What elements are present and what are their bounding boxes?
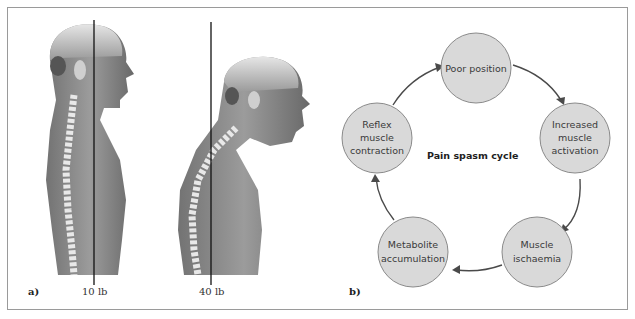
arrowhead-icon xyxy=(371,174,380,182)
node-label: accumulation xyxy=(381,253,445,264)
arrow-ischaemia-to-metabolite xyxy=(456,265,502,271)
node-label: Poor position xyxy=(445,63,507,74)
node-metabolite-accumulation xyxy=(378,217,448,287)
upright-figure-icon xyxy=(46,24,134,275)
weight-label-40lb: 40 lb xyxy=(199,286,225,297)
node-muscle-ischaemia xyxy=(502,217,572,287)
node-label: muscle xyxy=(360,132,394,143)
node-label: Muscle xyxy=(521,239,554,250)
arrowhead-icon xyxy=(556,97,565,105)
cycle-title: Pain spasm cycle xyxy=(427,150,518,161)
panel-a-illustration: Poor position Increased muscle activatio… xyxy=(0,0,635,319)
node-label: Reflex xyxy=(362,119,392,130)
node-label: ischaemia xyxy=(513,253,561,264)
weight-label-10lb: 10 lb xyxy=(82,286,108,297)
node-label: Metabolite xyxy=(388,239,438,250)
arrow-increased-to-ischaemia xyxy=(563,179,580,230)
node-label: activation xyxy=(551,145,598,156)
arrow-metabolite-to-reflex xyxy=(376,178,394,220)
forward-head-figure-icon xyxy=(178,57,310,275)
arrow-poor-to-increased xyxy=(513,65,561,100)
node-label: contraction xyxy=(350,145,404,156)
arrow-reflex-to-poor xyxy=(393,67,440,105)
arrowhead-icon xyxy=(452,265,460,274)
panel-a-label: a) xyxy=(28,286,39,297)
panel-b-label: b) xyxy=(349,286,361,297)
node-label: Increased xyxy=(552,119,598,130)
node-label: muscle xyxy=(558,132,592,143)
